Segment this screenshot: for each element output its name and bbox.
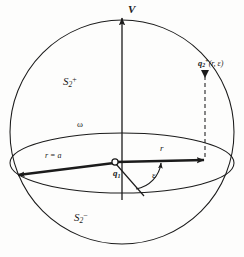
label-lower-hemisphere-sup: − [83,211,87,220]
label-point-q2-args: (r, ε) [209,59,224,68]
label-upper-hemisphere: S2+ [63,76,77,89]
label-center-q1: q1 [113,169,121,179]
label-axis-v: V [128,4,135,15]
label-equator-omega: ω [77,120,83,129]
origin-marker-q1 [112,159,118,165]
label-radius-left: r = a [45,152,62,160]
figure-container: V S2+ S2− ω q2+(r, ε) q1 r = a r ε [0,0,244,257]
label-radius-right: r [160,144,164,153]
label-center-q1-sub: 1 [118,173,121,179]
radius-vector-r [116,160,204,162]
label-point-q2: q2+(r, ε) [198,58,223,69]
label-upper-hemisphere-sup: + [72,75,76,84]
label-lower-hemisphere: S2− [74,212,88,225]
geometry-diagram-svg [0,0,244,257]
label-angle-epsilon: ε [152,171,156,180]
angle-arc-epsilon [136,163,161,189]
radius-vector-r-equals-a [18,163,114,175]
point-q2-marker [201,70,209,78]
